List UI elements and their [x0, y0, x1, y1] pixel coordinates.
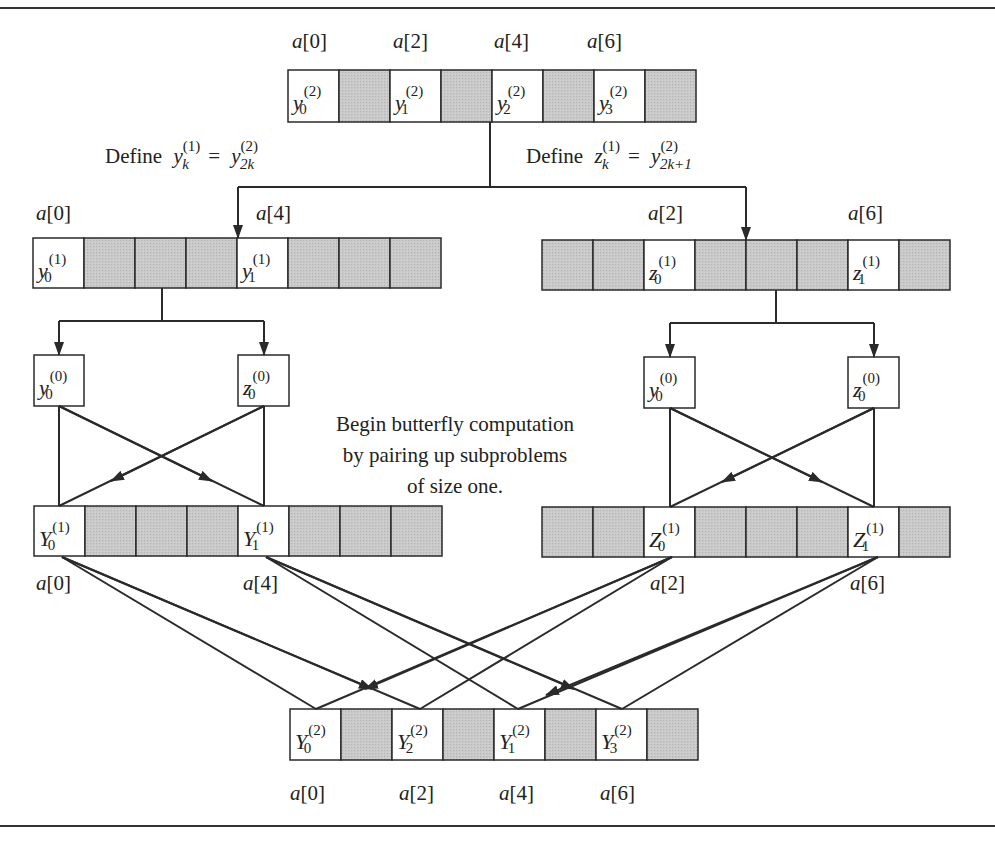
butterfly-final	[62, 557, 878, 709]
index-label: a[4]	[243, 571, 278, 595]
array-cell-empty	[84, 238, 135, 288]
index-label: a[2]	[650, 571, 685, 595]
definition-right: Define z(1)k = y(2)2k+1	[526, 138, 692, 174]
index-label: a[4]	[494, 29, 529, 53]
result1-right-array: Z(1)0Z(1)1	[542, 507, 950, 557]
index-label: a[4]	[256, 201, 291, 225]
array-cell-empty	[339, 238, 390, 288]
array-cell-empty	[85, 506, 136, 556]
array-cell-empty	[542, 507, 593, 557]
array-cell-empty	[797, 240, 848, 290]
array-cell-empty	[391, 506, 442, 556]
array-cell-empty	[746, 507, 797, 557]
array-cell-empty	[899, 507, 950, 557]
array-cell-empty	[593, 240, 644, 290]
array-cell-empty	[135, 238, 186, 288]
array-cell-empty	[136, 506, 187, 556]
index-label: a[0]	[36, 201, 71, 225]
array-cell-empty	[542, 240, 593, 290]
array-cell-empty	[797, 507, 848, 557]
annotation-line-3: of size one.	[407, 474, 503, 498]
index-label: a[2]	[393, 29, 428, 53]
index-label: a[0]	[290, 781, 325, 805]
level0-left-z-box: z(0)0	[238, 355, 289, 406]
array-cell-empty	[186, 238, 237, 288]
level0-right-z-box: z(0)0	[848, 357, 899, 408]
result1-left-array: Y(1)0Y(1)1	[34, 506, 442, 556]
index-label: a[0]	[36, 571, 71, 595]
index-label: a[6]	[600, 781, 635, 805]
array-cell-empty	[695, 507, 746, 557]
annotation-line-2: by pairing up subproblems	[343, 443, 568, 467]
index-label: a[6]	[848, 201, 883, 225]
array-cell-empty	[443, 709, 494, 760]
array-cell-empty	[746, 240, 797, 290]
array-cell-empty	[647, 709, 698, 760]
array-cell-empty	[695, 240, 746, 290]
array-cell-empty	[339, 70, 390, 122]
array-cell-empty	[340, 506, 391, 556]
fft-butterfly-diagram: y(2)0y(2)1y(2)2y(2)3y(1)0y(1)1z(1)0z(1)1…	[0, 0, 995, 843]
array-cell-empty	[645, 70, 696, 122]
array-cell-empty	[187, 506, 238, 556]
array-cell-empty	[543, 70, 594, 122]
butterfly-annotation: Begin butterfly computation by pairing u…	[336, 412, 574, 498]
split-connector-left	[59, 288, 264, 355]
array-cell-empty	[545, 709, 596, 760]
array-cell-empty	[390, 238, 441, 288]
level0-right-y-box: y(0)0	[644, 357, 695, 408]
result2-array: Y(2)0Y(2)2Y(2)1Y(2)3	[290, 709, 698, 760]
level1-left-array: y(1)0y(1)1	[33, 238, 441, 288]
definition-left: Define y(1)k = y(2)2k	[105, 138, 258, 174]
split-connector-right	[670, 290, 874, 357]
array-cell-empty	[899, 240, 950, 290]
index-label: a[6]	[850, 571, 885, 595]
butterfly-right	[670, 408, 874, 507]
index-label: a[6]	[587, 29, 622, 53]
level1-right-array: z(1)0z(1)1	[542, 240, 950, 290]
array-cell-empty	[441, 70, 492, 122]
array-cell-empty	[593, 507, 644, 557]
level0-left-y-box: y(0)0	[34, 355, 84, 406]
butterfly-left	[59, 406, 264, 506]
index-label: a[2]	[399, 781, 434, 805]
index-label: a[2]	[648, 201, 683, 225]
array-cell-empty	[289, 506, 340, 556]
index-label: a[4]	[499, 781, 534, 805]
index-label: a[0]	[292, 29, 327, 53]
array-cell-empty	[341, 709, 392, 760]
array-cell-empty	[288, 238, 339, 288]
top-array-array: y(2)0y(2)1y(2)2y(2)3	[288, 70, 696, 122]
annotation-line-1: Begin butterfly computation	[336, 412, 574, 436]
